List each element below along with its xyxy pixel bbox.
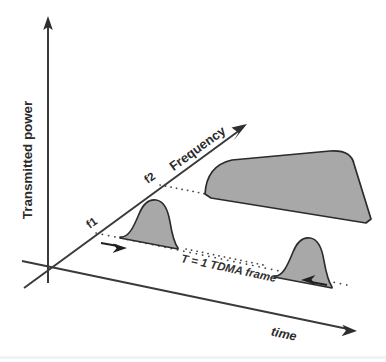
figure-container: Transmitted power Frequency f2 f1 time T… xyxy=(0,0,386,362)
arrow-diagonal-up-right-icon xyxy=(232,124,248,141)
time-axis-label: time xyxy=(270,325,298,344)
f2-slab-shape xyxy=(205,151,371,223)
arrow-right-icon xyxy=(113,244,128,254)
f2-baseline xyxy=(160,185,206,194)
f1-burst-1 xyxy=(120,200,178,249)
tdma-fdma-diagram: Transmitted power Frequency f2 f1 time T… xyxy=(0,0,386,362)
frequency-tick-f2: f2 xyxy=(142,170,157,186)
y-axis-label: Transmitted power xyxy=(20,100,35,219)
vertical-axis xyxy=(43,16,53,283)
frequency-tick-f1: f1 xyxy=(84,215,100,231)
f2-transmission-slab xyxy=(205,151,371,223)
burst-width-marker-left xyxy=(101,243,127,253)
arrow-down-right-icon xyxy=(342,325,358,336)
tdma-frame-label: T = 1 TDMA frame xyxy=(180,252,278,284)
scan-edge-artifact xyxy=(0,356,386,359)
f1-burst-1-shape xyxy=(120,200,178,249)
f2-baseline-dotted xyxy=(160,185,206,194)
